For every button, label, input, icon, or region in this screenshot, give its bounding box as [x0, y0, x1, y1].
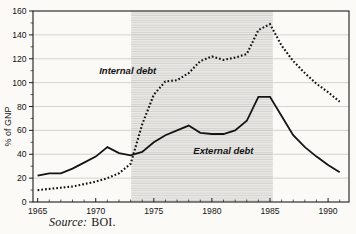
x-tick-label: 1965 — [28, 206, 47, 216]
source-note: Source:BOI. — [49, 215, 116, 230]
y-tick-label: 20 — [17, 173, 27, 183]
x-tick-label: 1985 — [260, 206, 279, 216]
y-tick-label: 160 — [12, 6, 27, 16]
y-tick-label: 80 — [17, 102, 27, 112]
series-label-external-debt: External debt — [193, 145, 254, 156]
y-tick-label: 60 — [17, 125, 27, 135]
source-label: Source: — [49, 215, 87, 229]
y-axis-title: % of GNP — [3, 106, 13, 146]
x-tick-label: 1975 — [144, 206, 163, 216]
y-tick-label: 40 — [17, 149, 27, 159]
source-name: BOI. — [91, 215, 115, 229]
y-tick-label: 120 — [12, 54, 27, 64]
x-tick-label: 1980 — [202, 206, 221, 216]
chart-canvas: 1965197019751980198519900204060801001201… — [0, 0, 356, 234]
y-tick-label: 100 — [12, 78, 27, 88]
y-tick-label: 0 — [22, 197, 27, 207]
series-label-internal-debt: Internal debt — [99, 65, 157, 76]
debt-gnp-figure: 1965197019751980198519900204060801001201… — [0, 0, 356, 234]
x-tick-label: 1990 — [319, 206, 338, 216]
y-tick-label: 140 — [12, 30, 27, 40]
